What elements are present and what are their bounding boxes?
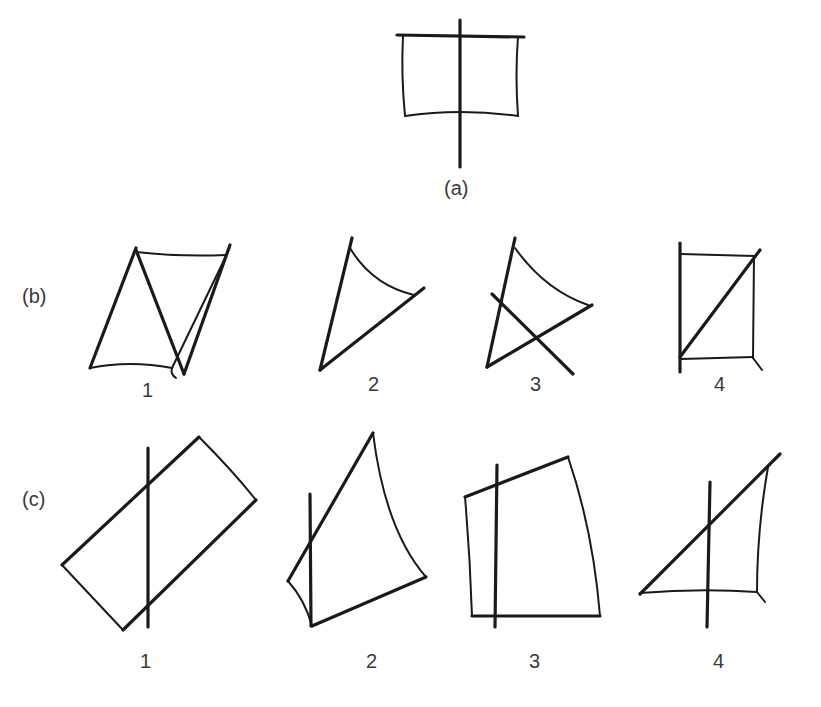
shape-c1 xyxy=(62,437,256,630)
shape-b4 xyxy=(680,243,762,372)
option-c2-label: 2 xyxy=(366,650,377,673)
figure-canvas xyxy=(0,0,821,707)
option-b2-label: 2 xyxy=(368,373,379,396)
option-c3-label: 3 xyxy=(529,650,540,673)
panel-label-b: (b) xyxy=(22,285,46,308)
shape-b1 xyxy=(90,245,230,378)
shape-b3 xyxy=(487,238,592,374)
shape-b2 xyxy=(320,238,424,370)
option-b3-label: 3 xyxy=(530,373,541,396)
panel-label-a: (a) xyxy=(444,177,468,200)
option-b1-label: 1 xyxy=(142,379,153,402)
shape-c3 xyxy=(465,457,600,627)
option-c1-label: 1 xyxy=(140,650,151,673)
shape-c2 xyxy=(288,433,426,626)
shape-a xyxy=(397,20,524,167)
option-c4-label: 4 xyxy=(713,650,724,673)
shape-c4 xyxy=(640,454,780,627)
option-b4-label: 4 xyxy=(714,373,725,396)
panel-label-c: (c) xyxy=(22,488,45,511)
